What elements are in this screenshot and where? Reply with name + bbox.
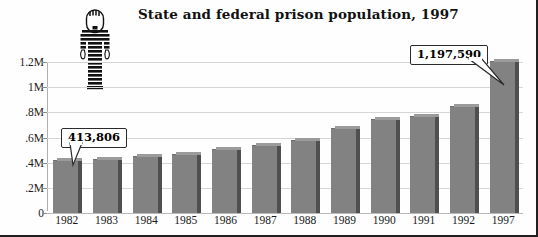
bar-1992[interactable] — [450, 104, 479, 213]
chart-title: State and federal prison population, 199… — [138, 6, 468, 22]
bar-front-face — [331, 128, 356, 213]
x-axis-tick-label: 1990 — [364, 214, 404, 226]
y-axis-tick-label: 1M — [2, 81, 44, 93]
bar-side-face — [475, 107, 479, 213]
bar-front-face — [371, 119, 396, 213]
x-axis-tick-label: 1989 — [325, 214, 365, 226]
chart-figure: State and federal prison population, 199… — [0, 0, 538, 237]
bar-side-face — [118, 160, 122, 213]
bar-top-face — [176, 152, 201, 155]
bar-side-face — [158, 157, 162, 213]
x-axis-tick-label: 1983 — [87, 214, 127, 226]
bar-top-face — [216, 147, 241, 150]
x-axis-tick-label: 1997 — [483, 214, 523, 226]
bar-top-face — [375, 117, 400, 120]
bar-side-face — [396, 120, 400, 213]
bar-1988[interactable] — [291, 138, 320, 213]
x-axis-tick-label: 1988 — [285, 214, 325, 226]
bar-side-face — [316, 141, 320, 213]
bar-front-face — [172, 154, 197, 213]
bar-1987[interactable] — [252, 143, 281, 213]
bar-side-face — [277, 146, 281, 213]
bar-top-face — [295, 138, 320, 141]
y-axis-tick-label: .4M — [2, 157, 44, 169]
annotation-leader-1997 — [470, 59, 520, 91]
bar-1989[interactable] — [331, 126, 360, 213]
x-axis-tick-label: 1982 — [47, 214, 87, 226]
bar-front-face — [410, 116, 435, 213]
bar-front-face — [212, 149, 237, 213]
x-axis-tick-label: 1991 — [404, 214, 444, 226]
bar-1985[interactable] — [172, 152, 201, 213]
y-axis-tick-label: .6M — [2, 132, 44, 144]
x-axis-tick-label: 1984 — [126, 214, 166, 226]
bar-side-face — [435, 117, 439, 213]
bar-top-face — [414, 114, 439, 117]
bar-front-face — [133, 156, 158, 213]
annotation-leader-1982 — [60, 143, 100, 169]
y-axis-tick-label: .8M — [2, 106, 44, 118]
bar-front-face — [291, 140, 316, 213]
x-axis-labels: 1982198319841985198619871988198919901991… — [47, 214, 523, 234]
bar-1991[interactable] — [410, 114, 439, 213]
bar-front-face — [252, 145, 277, 213]
bar-1986[interactable] — [212, 147, 241, 213]
y-axis-labels: 0.2M.4M.6M.8M1M1.2M — [0, 62, 44, 211]
x-axis-tick-label: 1992 — [444, 214, 484, 226]
bar-front-face — [450, 106, 475, 213]
bar-1990[interactable] — [371, 117, 400, 213]
x-axis-tick-label: 1986 — [206, 214, 246, 226]
bar-top-face — [97, 157, 122, 160]
bar-top-face — [335, 126, 360, 129]
y-axis-tick-label: .2M — [2, 182, 44, 194]
x-axis-tick-label: 1987 — [245, 214, 285, 226]
bar-side-face — [197, 155, 201, 213]
bar-side-face — [237, 150, 241, 213]
y-axis-tick-label: 1.2M — [2, 56, 44, 68]
x-axis-tick-label: 1985 — [166, 214, 206, 226]
y-axis-tick-label: 0 — [2, 207, 44, 219]
bar-side-face — [356, 129, 360, 213]
bar-top-face — [454, 104, 479, 107]
bar-top-face — [256, 143, 281, 146]
bar-1984[interactable] — [133, 154, 162, 213]
bar-top-face — [137, 154, 162, 157]
